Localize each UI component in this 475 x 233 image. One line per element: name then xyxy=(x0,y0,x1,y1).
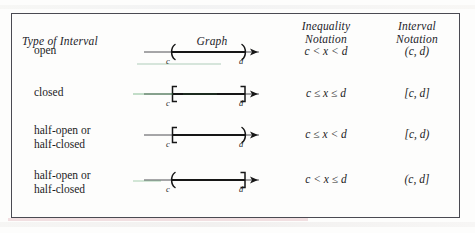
scan-tint-artifact xyxy=(133,180,161,182)
column-header-interval-line1: Interval xyxy=(374,20,460,33)
cell-interval-type: open xyxy=(34,44,154,58)
column-header-inequality-line1: Inequality xyxy=(274,20,378,33)
cell-number-line-graph: c d xyxy=(142,82,268,112)
scan-tint-artifact xyxy=(137,63,221,65)
number-line-diagram xyxy=(142,123,268,147)
scan-edge-tint-bottom xyxy=(0,222,475,227)
interval-type-line1: open xyxy=(34,44,154,58)
cell-interval-type: half-open or half-closed xyxy=(34,169,154,196)
endpoint-label-d: d xyxy=(239,139,243,149)
cell-inequality-notation: c ≤ x < d xyxy=(274,128,378,140)
cell-interval-type: half-open or half-closed xyxy=(34,124,154,151)
interval-type-line2: half-closed xyxy=(34,138,154,152)
cell-inequality-notation: c < x < d xyxy=(274,45,378,57)
cell-interval-notation: [c, d] xyxy=(374,87,460,99)
cell-inequality-notation: c < x ≤ d xyxy=(274,173,378,185)
cell-interval-notation: [c, d) xyxy=(374,128,460,140)
cell-number-line-graph: c d xyxy=(142,168,268,198)
endpoint-label-d: d xyxy=(239,56,243,66)
interval-table: Type of Interval Graph Inequality Notati… xyxy=(12,14,461,219)
scan-edge-tint-top xyxy=(0,5,475,9)
column-header-interval-notation: Interval Notation xyxy=(374,20,460,45)
cell-number-line-graph: c d xyxy=(142,123,268,153)
table-row: half-open or half-closed c d c ≤ x < d [… xyxy=(12,127,461,168)
cell-inequality-notation: c ≤ x ≤ d xyxy=(274,87,378,99)
cell-number-line-graph: c d xyxy=(142,40,268,70)
number-line-diagram xyxy=(142,40,268,64)
scan-tint-artifact xyxy=(183,93,217,95)
table-row: half-open or half-closed c d c < x ≤ d (… xyxy=(12,172,461,213)
interval-type-line1: half-open or xyxy=(34,124,154,138)
interval-table-frame: Type of Interval Graph Inequality Notati… xyxy=(11,13,460,218)
endpoint-label-d: d xyxy=(239,184,243,194)
cell-interval-notation: (c, d) xyxy=(374,45,460,57)
cell-interval-notation: (c, d] xyxy=(374,173,460,185)
table-row: closed c d c ≤ x ≤ d [c, d] xyxy=(12,86,461,127)
endpoint-label-c: c xyxy=(166,139,170,149)
interval-type-line2: half-closed xyxy=(34,183,154,197)
endpoint-label-d: d xyxy=(239,98,243,108)
column-header-inequality-notation: Inequality Notation xyxy=(274,20,378,45)
endpoint-label-c: c xyxy=(166,98,170,108)
scan-tint-artifact xyxy=(133,93,173,95)
endpoint-label-c: c xyxy=(166,184,170,194)
table-row: open c d c < x < d (c, d) xyxy=(12,44,461,85)
